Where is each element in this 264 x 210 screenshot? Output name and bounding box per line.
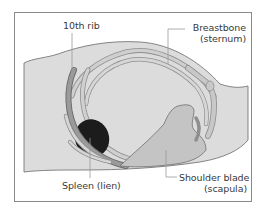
anatomy-figure: 10th rib Breastbone (sternum) Spleen (li…: [0, 0, 264, 210]
label-sternum-line1: Breastbone: [190, 22, 246, 33]
label-sternum-line2: (sternum): [190, 33, 246, 44]
label-10th-rib-text: 10th rib: [63, 20, 100, 31]
label-spleen: Spleen (lien): [62, 180, 121, 191]
label-10th-rib: 10th rib: [63, 20, 100, 31]
label-spleen-text: Spleen (lien): [62, 180, 121, 191]
label-scapula: Shoulder blade (scapula): [179, 172, 247, 194]
label-scapula-line2: (scapula): [179, 183, 247, 194]
label-scapula-line1: Shoulder blade: [179, 172, 247, 183]
label-sternum: Breastbone (sternum): [190, 22, 246, 44]
